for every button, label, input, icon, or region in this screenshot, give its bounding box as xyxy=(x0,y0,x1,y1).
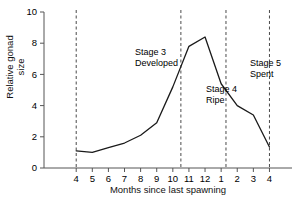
x-axis-tick-labels: 4567891011121234 xyxy=(74,173,273,184)
x-tick-label: 6 xyxy=(106,173,111,184)
plot-area: 0246810 4567891011121234 xyxy=(0,0,303,202)
y-tick-label: 10 xyxy=(26,6,37,17)
x-axis-ticks xyxy=(76,168,269,172)
annotation-stage-5: Stage 5Spent xyxy=(250,58,281,79)
y-tick-label: 2 xyxy=(32,131,37,142)
x-tick-label: 4 xyxy=(267,173,272,184)
x-tick-label: 8 xyxy=(138,173,143,184)
annotation-stage-5-line1: Stage 5 xyxy=(250,58,281,68)
stage-divider-lines xyxy=(76,10,269,168)
x-tick-label: 3 xyxy=(251,173,256,184)
y-tick-label: 0 xyxy=(32,162,37,173)
annotation-stage-4-line2: Ripe xyxy=(206,95,225,105)
x-tick-label: 7 xyxy=(122,173,127,184)
x-tick-label: 5 xyxy=(90,173,95,184)
x-tick-label: 2 xyxy=(235,173,240,184)
x-tick-label: 1 xyxy=(218,173,223,184)
y-tick-label: 8 xyxy=(32,37,37,48)
annotation-stage-5-line2: Spent xyxy=(250,69,274,79)
y-axis-title: Relative gonad size xyxy=(4,30,26,104)
annotation-stage-4: Stage 4Ripe xyxy=(206,84,237,105)
y-axis-tick-labels: 0246810 xyxy=(26,6,37,173)
x-tick-label: 10 xyxy=(168,173,179,184)
annotation-stage-4-line1: Stage 4 xyxy=(206,84,237,94)
x-tick-label: 11 xyxy=(184,173,194,184)
y-axis: 0246810 xyxy=(26,6,44,173)
x-tick-label: 4 xyxy=(74,173,79,184)
x-tick-label: 12 xyxy=(200,173,211,184)
annotation-stage-3: Stage 3Developed xyxy=(135,47,178,68)
y-tick-label: 4 xyxy=(32,100,37,111)
annotation-stage-3-line1: Stage 3 xyxy=(135,47,166,57)
x-axis-title: Months since last spawning xyxy=(44,184,292,195)
annotation-stage-3-line2: Developed xyxy=(135,58,178,68)
x-axis: 4567891011121234 xyxy=(44,168,292,184)
gonad-size-line-chart: 0246810 4567891011121234 Relative gonad … xyxy=(0,0,303,202)
y-axis-ticks xyxy=(40,12,44,168)
y-tick-label: 6 xyxy=(32,69,37,80)
x-tick-label: 9 xyxy=(154,173,159,184)
